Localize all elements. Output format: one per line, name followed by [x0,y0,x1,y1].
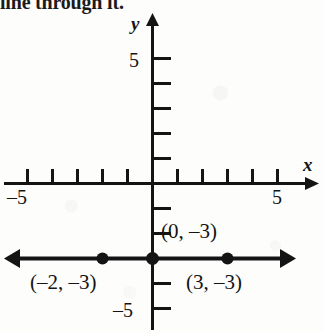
y-tick-label-neg5: –5 [113,300,133,320]
point-0-neg3 [146,252,159,265]
y-tick-label-5: 5 [129,50,139,70]
graph-figure: line through it. [0,0,324,332]
point-neg2-neg3 [97,253,109,265]
point-3-neg3 [222,253,234,265]
x-tick-label-5: 5 [272,187,282,207]
label-point-left: (–2, –3) [30,272,97,293]
label-point-origin: (0, –3) [161,221,217,242]
x-tick-label-neg5: –5 [7,187,27,207]
label-point-right: (3, –3) [186,272,242,293]
y-axis-label: y [131,14,139,33]
x-axis-label: x [303,155,313,174]
